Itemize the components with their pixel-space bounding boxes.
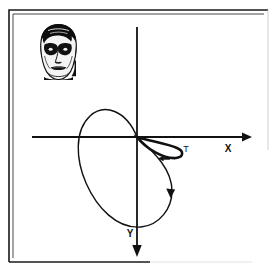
trajectory-curve-small-loop (137, 137, 182, 158)
point-label-t: T (183, 144, 189, 154)
figure-container: X Y T (0, 0, 275, 272)
face-portrait-icon (41, 24, 77, 80)
x-axis (32, 133, 252, 142)
x-axis-label: X (225, 143, 232, 154)
direction-arrow-large (166, 188, 175, 198)
diagram-canvas: X Y T (0, 0, 275, 272)
trajectory-curve-main (78, 110, 172, 227)
y-axis-label: Y (127, 228, 134, 239)
